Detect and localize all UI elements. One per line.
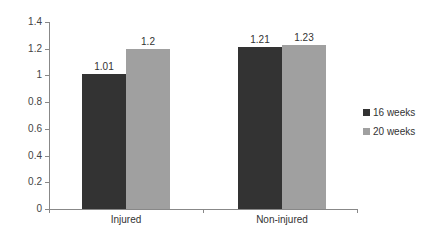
y-tick-label: 0.4 (12, 150, 42, 161)
x-category-label: Injured (66, 214, 186, 225)
y-tick-label: 1.2 (12, 43, 42, 54)
bar-16-weeks-non-injured (238, 47, 282, 209)
y-tick (45, 129, 49, 130)
bar-20-weeks-injured (126, 49, 170, 209)
y-tick (45, 102, 49, 103)
value-label: 1.01 (82, 61, 126, 72)
y-tick-label: 0.6 (12, 123, 42, 134)
legend: 16 weeks20 weeks (363, 103, 415, 141)
bar-20-weeks-non-injured (282, 45, 326, 209)
y-tick-label: 1 (12, 69, 42, 80)
value-label: 1.2 (126, 36, 170, 47)
y-tick (45, 22, 49, 23)
legend-swatch-icon (363, 109, 370, 116)
legend-swatch-icon (363, 128, 370, 135)
y-tick-label: 0.2 (12, 176, 42, 187)
legend-label: 16 weeks (373, 107, 415, 118)
x-tick (357, 209, 358, 213)
y-tick (45, 49, 49, 50)
legend-label: 20 weeks (373, 126, 415, 137)
y-tick-label: 1.4 (12, 16, 42, 27)
legend-item: 20 weeks (363, 122, 415, 141)
y-tick-label: 0.8 (12, 96, 42, 107)
y-tick-label: 0 (12, 203, 42, 214)
bar-chart: 00.20.40.60.811.21.41.011.2Injured1.211.… (0, 0, 434, 236)
y-tick (45, 156, 49, 157)
x-tick (49, 209, 50, 213)
value-label: 1.21 (238, 34, 282, 45)
legend-item: 16 weeks (363, 103, 415, 122)
y-tick (45, 182, 49, 183)
bar-16-weeks-injured (82, 74, 126, 209)
y-axis-line (49, 22, 50, 210)
x-tick (203, 209, 204, 213)
value-label: 1.23 (282, 32, 326, 43)
x-category-label: Non-injured (222, 214, 342, 225)
y-tick (45, 75, 49, 76)
